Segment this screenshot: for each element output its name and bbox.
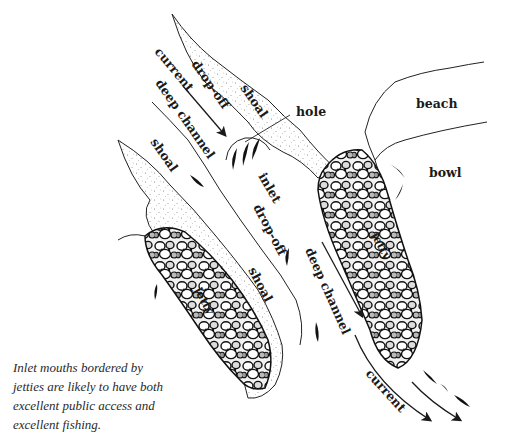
fish-icon <box>154 284 157 300</box>
fish-icon <box>232 148 237 170</box>
hole-outline <box>226 138 270 160</box>
jetty-right-shape <box>318 150 422 368</box>
label-bowl: bowl <box>429 165 462 180</box>
fish-icon <box>243 142 249 166</box>
label-current-bottom: current <box>363 366 410 415</box>
fish-icon <box>315 322 318 342</box>
label-hole: hole <box>296 104 326 119</box>
fish-icon <box>395 184 403 200</box>
fish-icon <box>423 370 437 384</box>
fish-icon <box>454 395 470 407</box>
caption-line: excellent public access and <box>13 396 178 415</box>
label-drop-off-mid: drop-off <box>250 201 290 258</box>
current-arrow-bottom-2 <box>412 382 460 420</box>
label-beach: beach <box>416 96 458 111</box>
fish-icon <box>440 384 448 392</box>
fish-icon <box>389 164 405 178</box>
caption-line: Inlet mouths bordered by <box>13 358 178 377</box>
caption: Inlet mouths bordered by jetties are lik… <box>13 358 178 434</box>
left-shore-line <box>118 235 145 240</box>
caption-line: jetties are likely to have both <box>13 377 178 396</box>
fish-icon <box>252 138 260 160</box>
fish-icon <box>190 175 204 187</box>
caption-line: excellent fishing. <box>13 415 178 434</box>
beach-line-lower <box>375 122 487 160</box>
label-inlet: inlet <box>255 170 284 206</box>
